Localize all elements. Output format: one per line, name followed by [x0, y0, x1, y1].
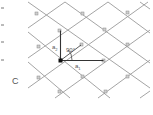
left-tick-marks: [1, 8, 4, 60]
label-a2: a2: [52, 44, 58, 52]
lattice-lines: [28, 2, 150, 98]
lattice-diagram: a2 90° a1 C: [0, 0, 153, 115]
origin-node: [59, 59, 63, 63]
label-angle: 90°: [66, 47, 76, 53]
panel-label: C: [12, 76, 19, 86]
label-a1: a1: [75, 63, 81, 71]
lattice-nodes: [35, 11, 129, 93]
